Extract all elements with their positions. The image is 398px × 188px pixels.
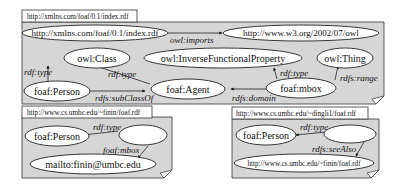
node-blank (324, 125, 376, 143)
document-title: http://www.cs.umbc.edu/~finin/foaf.rdf (27, 109, 141, 117)
edge-label-owl-imports: owl:imports (170, 35, 214, 45)
edge-label-mbox: foaf:mbox (103, 145, 140, 155)
node-label: owl:Class (77, 53, 117, 64)
node-label: http://www.w3.org/2002/07/owl (243, 28, 359, 38)
node-label: owl:Thing (324, 53, 366, 64)
document-title: http://www.cs.umbc.edu/~dingli1/foaf.rdf (236, 110, 357, 118)
graph-foaf-index: http://xmlns.com/foaf/0.1/index.rdf owl:… (22, 10, 384, 104)
node-label: http://www.cs.umbc.edu/~finin/foaf.rdf (247, 160, 361, 168)
edge-label-mbox-type: rdf:type (280, 68, 308, 78)
edge-label-agent-type: rdf:type (108, 69, 136, 79)
node-label: foaf:Person (34, 131, 80, 142)
edge-label-type: rdf:type (93, 122, 121, 132)
edge-label-domain: rdfs:domain (232, 93, 276, 103)
document-title: http://xmlns.com/foaf/0.1/index.rdf (27, 13, 129, 21)
node-label: mailto:finin@umbc.edu (45, 159, 141, 170)
edge-label-subclassof: rdfs:subClassOf (95, 93, 155, 103)
edge-label-range: rdfs:range (340, 73, 378, 83)
node-label: foaf:Person (34, 86, 80, 97)
node-label: foaf:mbox (280, 83, 322, 94)
node-blank (119, 125, 167, 145)
edge-label-type: rdf:type (300, 122, 328, 132)
node-label: foaf:Person (243, 130, 289, 141)
edge-label-seealso: rdfs:seeAlso (312, 144, 357, 154)
edge-label-person-type: rdf:type (24, 67, 52, 77)
rdf-diagram: http://xmlns.com/foaf/0.1/index.rdf owl:… (0, 0, 398, 188)
node-label: owl:InverseFunctionalProperty (161, 53, 285, 64)
graph-dingli1-foaf: http://www.cs.umbc.edu/~dingli1/foaf.rdf… (232, 107, 379, 178)
node-label: http://xmlns.com/foaf/0.1/index.rdf (31, 28, 158, 38)
graph-finin-foaf: http://www.cs.umbc.edu/~finin/foaf.rdf r… (22, 106, 172, 178)
node-label: foaf:Agent (166, 84, 210, 95)
